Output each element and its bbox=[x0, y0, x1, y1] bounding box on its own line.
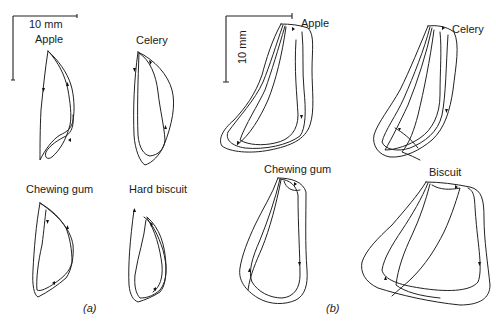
tracing-a-hard-biscuit bbox=[129, 208, 166, 302]
scale-bar-label-b: 10 mm bbox=[236, 30, 248, 64]
tracings-canvas bbox=[0, 0, 496, 326]
tracing-b-celery bbox=[374, 26, 457, 160]
tracing-b-biscuit bbox=[362, 182, 490, 305]
tracing-b-chewing-gum bbox=[240, 178, 308, 304]
panel-label-b: (b) bbox=[326, 302, 339, 314]
tracing-a-apple bbox=[40, 51, 74, 160]
tracing-label-b-apple: Apple bbox=[301, 17, 329, 29]
tracing-label-a-hard-biscuit: Hard biscuit bbox=[129, 183, 187, 195]
panel-label-a: (a) bbox=[83, 302, 96, 314]
tracing-a-celery bbox=[133, 52, 174, 165]
scale-bar-b bbox=[223, 13, 292, 82]
tracing-label-b-biscuit: Biscuit bbox=[429, 166, 461, 178]
tracing-b-apple bbox=[221, 24, 313, 152]
tracing-label-a-chewing-gum: Chewing gum bbox=[26, 183, 93, 195]
jaw-movement-figure: 10 mm Apple Celery Chewing gum Hard bisc… bbox=[0, 0, 496, 326]
tracing-a-chewing-gum bbox=[33, 203, 74, 297]
tracing-label-a-celery: Celery bbox=[136, 34, 168, 46]
scale-bar-label-a: 10 mm bbox=[29, 18, 63, 30]
tracing-label-b-chewing-gum: Chewing gum bbox=[264, 163, 331, 175]
tracing-label-b-celery: Celery bbox=[452, 23, 484, 35]
tracing-label-a-apple: Apple bbox=[35, 33, 63, 45]
